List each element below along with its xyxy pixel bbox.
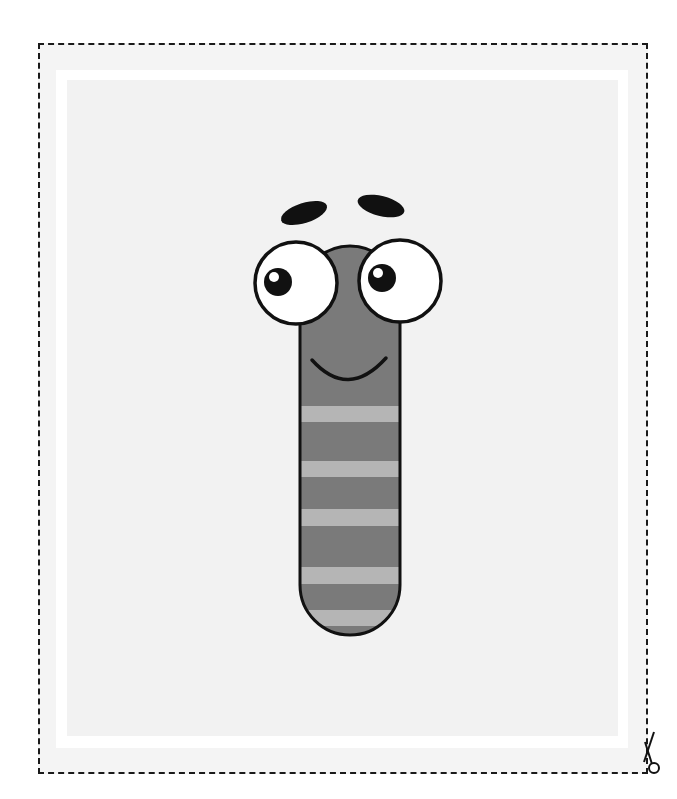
scissors-icon <box>636 728 670 778</box>
right-eyebrow <box>355 190 406 221</box>
worm-illustration <box>0 0 677 799</box>
right-eye <box>359 240 441 322</box>
left-eyebrow <box>278 196 330 230</box>
left-eye <box>255 242 337 324</box>
